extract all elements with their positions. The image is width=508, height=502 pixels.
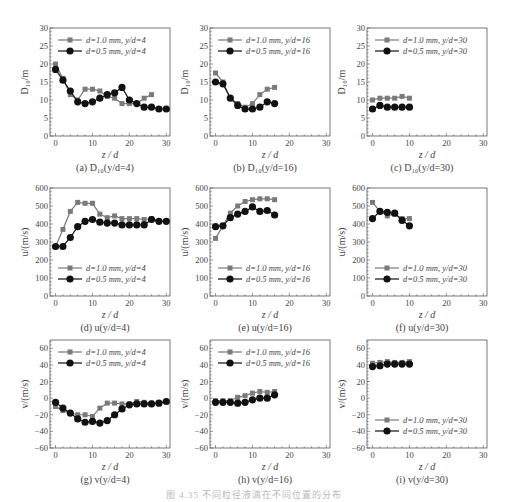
data-point <box>256 104 263 111</box>
data-point <box>53 62 58 67</box>
x-tick-label: 0 <box>370 450 374 460</box>
x-axis-label: z / d <box>418 461 437 472</box>
data-point <box>163 218 170 225</box>
svg-text:d=0.5 mm, y/d=4: d=0.5 mm, y/d=4 <box>86 46 146 56</box>
y-axis-label: u/(m/s) <box>336 228 348 257</box>
x-tick-label: 10 <box>405 298 414 308</box>
data-point <box>155 218 162 225</box>
legend-item: d=1.0 mm, y/d=16 <box>218 263 311 273</box>
series-line <box>56 64 152 104</box>
y-tick-label: 200 <box>35 255 48 265</box>
svg-text:d=0.5 mm, y/d=4: d=0.5 mm, y/d=4 <box>86 358 146 368</box>
x-tick-label: 0 <box>213 450 217 460</box>
data-point <box>235 395 240 400</box>
legend-item: d=1.0 mm, y/d=30 <box>375 35 468 45</box>
y-tick-label: 5 <box>361 113 365 123</box>
data-point <box>74 223 81 230</box>
data-point <box>265 196 270 201</box>
data-point <box>142 217 147 222</box>
y-tick-label: 0 <box>361 291 365 301</box>
chart-panel-f: 01002003004005006000102030z / du/(m/s)(f… <box>336 183 488 334</box>
data-point <box>213 236 218 241</box>
panel-label: (e) u(y/d=16) <box>238 322 292 334</box>
y-tick-label: 400 <box>352 219 365 229</box>
data-point <box>370 200 375 205</box>
data-point <box>83 87 88 92</box>
data-point <box>112 96 117 101</box>
data-point <box>52 66 59 73</box>
data-point <box>370 98 375 103</box>
legend-item: d=1.0 mm, y/d=4 <box>58 35 146 45</box>
data-point <box>59 243 66 250</box>
data-point <box>67 234 74 241</box>
y-tick-label: 200 <box>352 255 365 265</box>
data-point <box>250 101 255 106</box>
data-point <box>272 85 277 90</box>
legend-item: d=0.5 mm, y/d=4 <box>58 358 146 368</box>
svg-text:d=1.0 mm, y/d=4: d=1.0 mm, y/d=4 <box>86 263 146 273</box>
data-point <box>111 89 118 96</box>
data-point <box>83 412 88 417</box>
x-tick-label: 10 <box>248 138 257 148</box>
figure-grid: 0510152025300102030z / dD₁₀/m(a) D₁₀(y/d… <box>0 0 508 502</box>
data-point <box>385 96 390 101</box>
data-point <box>249 203 256 210</box>
y-tick-label: 60 <box>357 343 366 353</box>
data-point <box>257 196 262 201</box>
y-tick-label: 500 <box>35 201 48 211</box>
y-axis-label: u/(m/s) <box>179 228 191 257</box>
data-point <box>391 210 398 217</box>
data-point <box>241 105 248 112</box>
data-point <box>406 104 413 111</box>
svg-text:d=0.5 mm, y/d=4: d=0.5 mm, y/d=4 <box>86 274 146 284</box>
x-tick-label: 30 <box>322 138 331 148</box>
x-tick-label: 20 <box>285 138 294 148</box>
x-tick-label: 30 <box>479 450 488 460</box>
data-point <box>59 405 66 412</box>
x-tick-label: 20 <box>285 450 294 460</box>
y-tick-label: −20 <box>35 410 48 420</box>
y-tick-label: 200 <box>195 255 208 265</box>
chart-panel-e: 01002003004005006000102030z / du/(m/s)(e… <box>179 183 331 334</box>
x-tick-label: 0 <box>370 298 374 308</box>
svg-text:d=1.0 mm, y/d=30: d=1.0 mm, y/d=30 <box>403 415 468 425</box>
series-line <box>216 199 275 239</box>
x-tick-label: 20 <box>285 298 294 308</box>
x-tick-label: 20 <box>125 450 134 460</box>
data-point <box>118 84 125 91</box>
y-tick-label: −60 <box>352 443 365 453</box>
data-point <box>213 71 218 76</box>
data-point <box>227 95 234 102</box>
figure-caption: 图 4.35 不同粒径液滴在不同位置的分布 <box>0 488 508 501</box>
y-tick-label: −40 <box>35 426 48 436</box>
data-point <box>104 220 111 227</box>
y-tick-label: 600 <box>352 183 365 193</box>
data-point <box>249 396 256 403</box>
data-point <box>68 209 73 214</box>
data-point <box>250 391 255 396</box>
data-point <box>104 417 111 424</box>
data-point <box>89 98 96 105</box>
data-point <box>271 391 278 398</box>
data-point <box>234 400 241 407</box>
data-point <box>219 399 226 406</box>
y-tick-label: 400 <box>35 219 48 229</box>
chart-panel-c: 0510152025300102030z / dD₁₀/m(c) D₁₀(y/d… <box>336 23 488 174</box>
data-point <box>212 399 219 406</box>
data-point <box>81 419 88 426</box>
panel-label: (b) D₁₀(y/d=16) <box>233 162 296 174</box>
svg-text:d=0.5 mm, y/d=30: d=0.5 mm, y/d=30 <box>403 426 468 436</box>
y-tick-label: −60 <box>35 443 48 453</box>
data-point <box>90 201 95 206</box>
chart-panel-i: −60−40−2002040600102030z / dv/(m/s)(i) v… <box>336 340 488 486</box>
data-point <box>272 197 277 202</box>
x-tick-label: 20 <box>442 138 451 148</box>
legend-item: d=0.5 mm, y/d=4 <box>58 46 146 56</box>
data-point <box>133 100 140 107</box>
y-tick-label: −20 <box>195 410 208 420</box>
data-point <box>407 216 412 221</box>
y-tick-label: 500 <box>352 201 365 211</box>
data-point <box>96 219 103 226</box>
y-tick-label: −60 <box>195 443 208 453</box>
data-point <box>67 87 74 94</box>
